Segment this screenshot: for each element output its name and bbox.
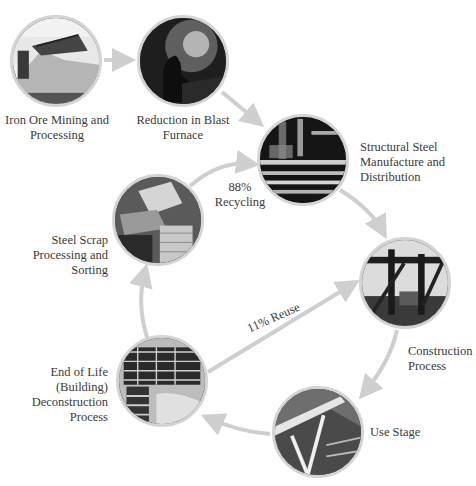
node-blast-furnace-photo: [137, 15, 229, 107]
node-end-of-life-photo: [116, 335, 208, 427]
label-iron-ore: Iron Ore Mining and Processing: [2, 113, 112, 143]
arrow-use-to-endoflife: [208, 418, 270, 434]
edge-label-recycling: 88% Recycling: [205, 180, 275, 210]
node-steel-scrap-photo: [112, 174, 204, 266]
node-iron-ore-photo: [10, 15, 102, 107]
arrow-structural-to-construction: [340, 190, 383, 232]
steel-scrap-image: [115, 177, 201, 263]
arrow-construction-to-use: [364, 330, 397, 393]
arrow-endoflife-to-scrap: [141, 271, 148, 340]
label-structural-steel: Structural Steel Manufacture and Distrib…: [360, 140, 476, 185]
label-steel-scrap: Steel Scrap Processing and Sorting: [4, 233, 108, 278]
node-use-stage-photo: [272, 386, 364, 478]
label-use-stage: Use Stage: [370, 425, 450, 440]
arrow-endoflife-to-construction-reuse: [208, 284, 353, 372]
node-construction-photo: [359, 237, 451, 329]
end-of-life-image: [119, 338, 205, 424]
blast-furnace-image: [140, 18, 226, 104]
use-stage-image: [275, 389, 361, 475]
label-blast-furnace: Reduction in Blast Furnace: [127, 113, 239, 143]
label-end-of-life: End of Life (Building) Deconstruction Pr…: [10, 365, 108, 425]
iron-ore-image: [13, 18, 99, 104]
label-construction: Construction Process: [408, 344, 476, 374]
construction-image: [362, 240, 448, 326]
